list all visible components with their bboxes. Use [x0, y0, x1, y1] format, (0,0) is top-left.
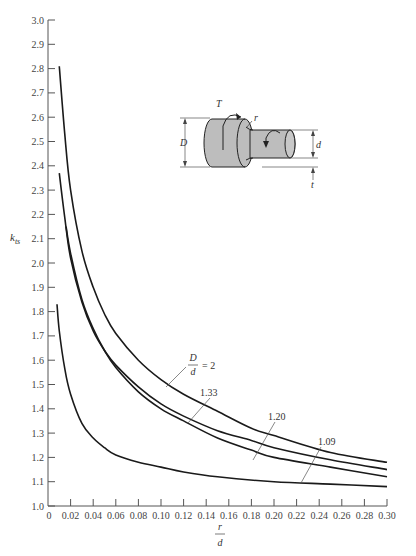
y-tick-label: 1.1 — [32, 476, 45, 487]
y-tick-label: 2.4 — [32, 160, 45, 171]
x-tick-label: 0.02 — [62, 510, 80, 521]
svg-text:1.09: 1.09 — [318, 436, 336, 447]
y-tick-label: 2.8 — [32, 63, 45, 74]
x-tick-label: 0.20 — [265, 510, 283, 521]
svg-text:1.20: 1.20 — [268, 411, 286, 422]
x-axis-label: r d — [215, 521, 225, 548]
x-tick-label: 0.24 — [310, 510, 328, 521]
y-tick-label: 1.6 — [32, 355, 45, 366]
y-tick-label: 1.5 — [32, 379, 45, 390]
y-tick-label: 2.1 — [32, 233, 45, 244]
y-tick-label: 1.0 — [32, 501, 45, 512]
x-tick-label: 0.06 — [107, 510, 125, 521]
y-tick-label: 2.7 — [32, 87, 45, 98]
curve-series-3 — [57, 304, 387, 486]
x-tick-label: 0.30 — [378, 510, 396, 521]
x-tick-label: 0.26 — [333, 510, 351, 521]
x-axis: 00.020.040.060.080.100.120.140.160.180.2… — [47, 499, 396, 521]
svg-text:r: r — [218, 521, 222, 532]
y-tick-label: 1.8 — [32, 306, 45, 317]
y-tick-label: 1.2 — [32, 452, 45, 463]
x-tick-label: 0.12 — [175, 510, 193, 521]
x-tick-label: 0.10 — [152, 510, 170, 521]
y-axis-label: kts — [10, 231, 20, 246]
x-tick-label: 0.28 — [356, 510, 374, 521]
x-tick-label: 0.14 — [197, 510, 215, 521]
y-tick-label: 2.3 — [32, 185, 45, 196]
svg-text:= 2: = 2 — [202, 360, 215, 371]
y-tick-label: 1.3 — [32, 428, 45, 439]
svg-text:r: r — [254, 112, 258, 123]
y-tick-label: 2.6 — [32, 112, 45, 123]
svg-text:d: d — [191, 366, 197, 377]
x-tick-label: 0 — [47, 510, 52, 521]
y-axis: 1.01.11.21.31.41.51.61.71.81.92.02.12.22… — [32, 15, 56, 512]
x-tick-label: 0.08 — [130, 510, 148, 521]
y-tick-label: 2.0 — [32, 258, 45, 269]
y-tick-label: 1.4 — [32, 403, 45, 414]
label-1-33: 1.33 — [188, 387, 218, 423]
y-tick-label: 1.7 — [32, 330, 45, 341]
x-tick-label: 0.22 — [288, 510, 306, 521]
y-tick-label: 3.0 — [32, 15, 45, 26]
curve-series-2 — [66, 227, 387, 477]
svg-text:D: D — [188, 352, 197, 363]
x-tick-label: 0.16 — [220, 510, 238, 521]
svg-text:D: D — [179, 137, 188, 148]
y-tick-label: 1.9 — [32, 282, 45, 293]
stress-concentration-chart: 1.01.11.21.31.41.51.61.71.81.92.02.12.22… — [0, 0, 416, 556]
x-tick-label: 0.18 — [243, 510, 261, 521]
svg-text:d: d — [218, 537, 224, 548]
svg-text:t: t — [311, 179, 314, 190]
svg-text:d: d — [316, 139, 322, 150]
label-d2: D d = 2 — [166, 352, 215, 387]
y-tick-label: 2.9 — [32, 39, 45, 50]
y-tick-label: 2.5 — [32, 136, 45, 147]
x-tick-label: 0.04 — [84, 510, 102, 521]
stepped-shaft-diagram: D T r d t — [179, 98, 322, 190]
svg-text:T: T — [216, 98, 223, 109]
y-tick-label: 2.2 — [32, 209, 45, 220]
svg-text:1.33: 1.33 — [200, 387, 218, 398]
